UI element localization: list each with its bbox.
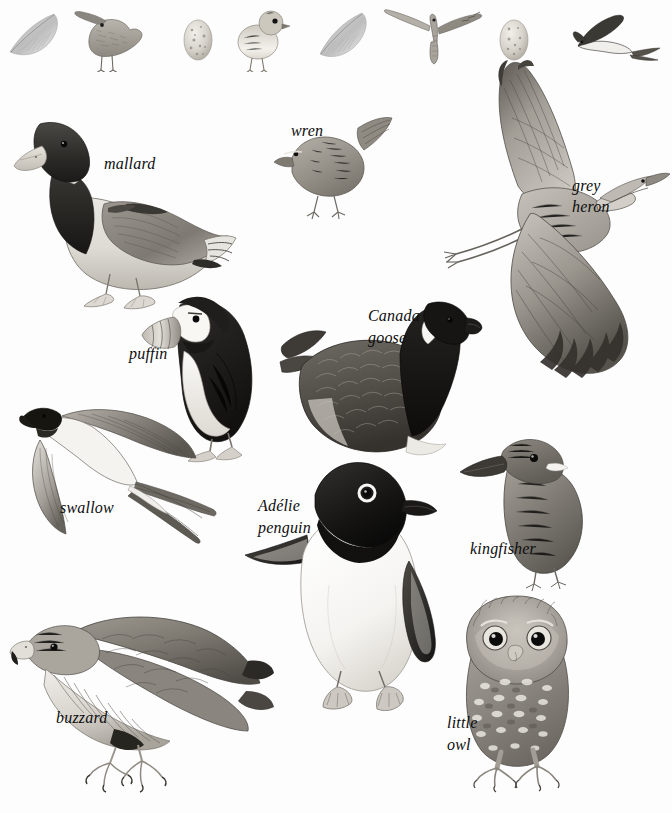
label-wren: wren: [291, 120, 323, 141]
label-adelie-penguin-line2: penguin: [258, 517, 311, 538]
speckled-egg-icon: [500, 20, 528, 60]
label-canada-goose: Canada: [368, 305, 420, 326]
chick-icon: [238, 11, 290, 72]
label-canada-goose-line2: goose: [368, 327, 406, 348]
label-kingfisher: kingfisher: [470, 538, 536, 559]
label-little-owl-line2: owl: [447, 734, 471, 755]
label-swallow: swallow: [60, 497, 114, 518]
label-grey-heron: grey: [572, 175, 601, 196]
swallow-small-icon: [573, 15, 660, 60]
feather-icon: [320, 13, 366, 57]
label-grey-heron-line2: heron: [572, 196, 610, 217]
feather-icon: [10, 14, 57, 55]
figure-little-owl: [445, 592, 610, 792]
speckled-egg-icon: [184, 20, 212, 60]
label-puffin: puffin: [129, 343, 168, 364]
bird-illustration-plate: mallard: [0, 0, 672, 813]
label-little-owl: little: [447, 712, 478, 733]
curlew-icon: [75, 12, 142, 72]
figure-swallow: [18, 392, 223, 542]
figure-buzzard: [10, 595, 275, 790]
label-adelie-penguin: Adélie: [258, 495, 300, 516]
label-buzzard: buzzard: [56, 707, 108, 728]
kestrel-in-flight-icon: [384, 10, 481, 64]
label-mallard: mallard: [104, 153, 155, 174]
